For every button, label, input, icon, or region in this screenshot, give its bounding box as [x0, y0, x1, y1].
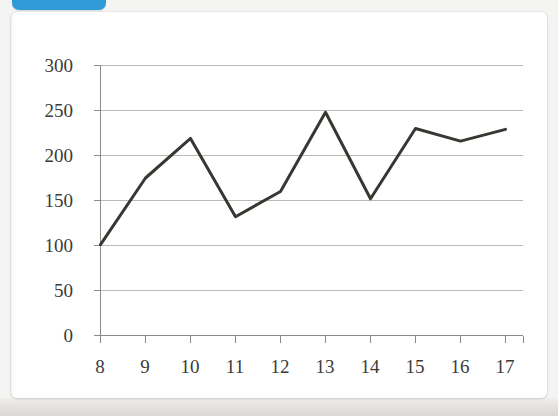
gridlines	[100, 66, 523, 291]
y-axis-ticks	[94, 66, 100, 336]
chart-card: 300 250 200 150 100 50 0 8 9 10 11 12 13…	[11, 12, 547, 398]
x-axis-ticks	[101, 336, 524, 344]
line-chart-figure: 300 250 200 150 100 50 0 8 9 10 11 12 13…	[11, 12, 547, 398]
plot-area	[11, 12, 547, 398]
data-series-line	[101, 112, 506, 244]
blue-tab-indicator[interactable]	[12, 0, 106, 10]
